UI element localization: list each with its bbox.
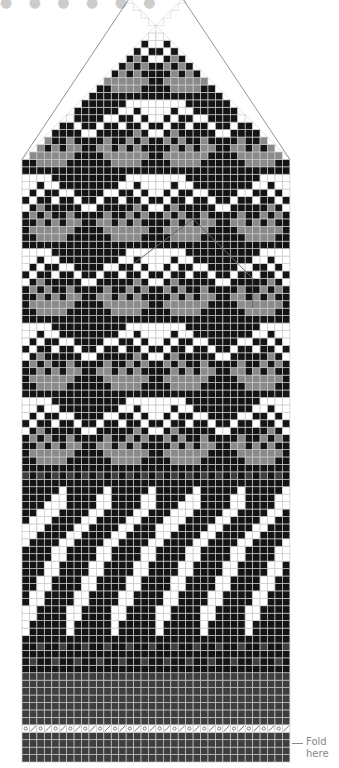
fold-label-line1: Fold <box>306 736 329 748</box>
fold-indicator-line <box>292 743 303 744</box>
fold-label-line2: here <box>306 748 329 760</box>
fold-here-label: Fold here <box>306 736 329 760</box>
knitting-chart <box>0 0 339 768</box>
